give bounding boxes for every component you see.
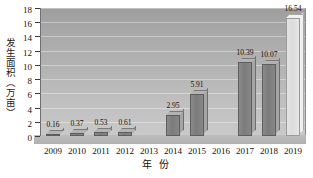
bar[interactable] (70, 133, 84, 136)
bar-side-face (276, 58, 280, 133)
y-axis-tickmark (35, 93, 40, 94)
bar[interactable] (286, 18, 300, 136)
bar-value-label: 5.91 (190, 81, 203, 89)
y-axis-tickmark (35, 65, 40, 66)
bar-front-face (238, 62, 252, 136)
bar[interactable] (166, 115, 180, 136)
y-axis-tick-label: 14 (15, 34, 32, 43)
y-axis-tick-label: 10 (15, 62, 32, 71)
bar-slot: 10.39 (233, 8, 257, 136)
bar[interactable] (94, 132, 108, 136)
x-axis-tick-label: 2011 (92, 146, 110, 157)
y-axis-tickmark (35, 8, 40, 9)
x-axis-tick-labels: 2009201020112012201320142015201620172018… (34, 146, 306, 158)
bar-slot: 2.95 (161, 8, 185, 136)
bar-value-label: 0.37 (70, 120, 83, 128)
bar-slot: 5.91 (185, 8, 209, 136)
bar-front-face (190, 94, 204, 136)
bar[interactable] (238, 62, 252, 136)
bar-value-label: 10.39 (237, 49, 254, 57)
y-axis-tickmark (35, 22, 40, 23)
bar[interactable] (262, 64, 276, 136)
plot-floor (34, 135, 306, 144)
y-axis-tick-label: 2 (15, 119, 32, 128)
bar-value-label: 0.16 (46, 121, 59, 129)
bar-value-label: 0.53 (94, 119, 107, 127)
bar-value-label: 2.95 (166, 102, 179, 110)
bar-series: 0.160.370.530.612.955.9110.3910.0716.54 (41, 8, 305, 136)
y-axis-tick-label: 18 (15, 6, 32, 15)
plot-area: 0.160.370.530.612.955.9110.3910.0716.54 (34, 8, 306, 144)
bar-front-face (118, 132, 132, 136)
y-axis-tickmark (35, 122, 40, 123)
bar-front-face (46, 134, 60, 136)
bar-value-label: 16.54 (285, 5, 302, 13)
bar-front-face (94, 132, 108, 136)
y-axis-tick-label: 12 (15, 48, 32, 57)
bar-slot: 0.16 (41, 8, 65, 136)
x-axis-tick-label: 2009 (44, 146, 62, 157)
bar-slot: 10.07 (257, 8, 281, 136)
y-axis-tickmark (35, 51, 40, 52)
bar[interactable] (46, 134, 60, 136)
x-axis-tick-label: 2018 (260, 146, 278, 157)
y-axis-tick-label: 6 (15, 91, 32, 100)
x-axis-tick-label: 2012 (116, 146, 134, 157)
bar-front-face (166, 115, 180, 136)
y-axis-title: 发生面积（万亩） (2, 18, 15, 138)
bar-side-face (204, 88, 208, 133)
x-axis-tick-label: 2016 (212, 146, 230, 157)
x-axis-tick-label: 2014 (164, 146, 182, 157)
x-axis-tick-label: 2015 (188, 146, 206, 157)
x-axis-tick-label: 2010 (68, 146, 86, 157)
y-axis-tickmark (35, 36, 40, 37)
bar-slot: 0.53 (89, 8, 113, 136)
x-axis-title: 年 份 (0, 159, 313, 171)
bar-side-face (252, 56, 256, 133)
bar-slot: 16.54 (281, 8, 305, 136)
y-axis-tick-label: 0 (15, 134, 32, 143)
y-axis-tickmark (35, 136, 40, 137)
y-axis-tick-labels: 024681012141618 (15, 10, 32, 137)
bar[interactable] (190, 94, 204, 136)
chart-figure: 发生面积（万亩） 024681012141618 0.160.370.530.6… (0, 0, 313, 178)
y-axis-tickmark (35, 108, 40, 109)
bar[interactable] (118, 132, 132, 136)
bar-slot: 0.61 (113, 8, 137, 136)
bar-slot: 0.37 (65, 8, 89, 136)
y-axis-tick-label: 8 (15, 77, 32, 86)
y-axis-tick-label: 16 (15, 20, 32, 29)
bar-front-face (262, 64, 276, 136)
x-axis-tick-label: 2017 (236, 146, 254, 157)
x-axis-tick-label: 2013 (140, 146, 158, 157)
x-axis-tick-label: 2019 (284, 146, 302, 157)
bar-value-label: 0.61 (118, 119, 131, 127)
bar-front-face (70, 133, 84, 136)
bar-side-face (300, 12, 304, 133)
bar-front-face (286, 18, 300, 136)
y-axis-tickmark (35, 79, 40, 80)
bar-value-label: 10.07 (261, 51, 278, 59)
y-axis-tick-label: 4 (15, 105, 32, 114)
